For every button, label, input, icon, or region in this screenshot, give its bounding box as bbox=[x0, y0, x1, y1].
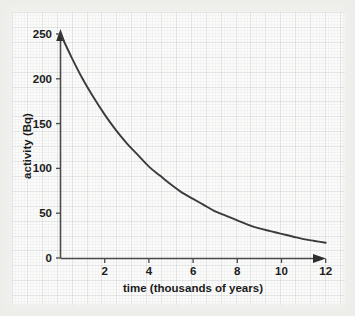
y-tick-label-150: 150 bbox=[33, 118, 52, 130]
y-tick-label-200: 200 bbox=[33, 73, 52, 85]
y-tick-label-0: 0 bbox=[46, 252, 52, 264]
decay-chart-figure: 0 50 100 150 200 250 2 4 6 8 10 12 time … bbox=[0, 0, 355, 316]
x-tick-label-4: 4 bbox=[146, 265, 153, 277]
y-tick-label-50: 50 bbox=[39, 207, 52, 219]
x-axis-title: time (thousands of years) bbox=[123, 282, 263, 294]
y-tick-label-100: 100 bbox=[33, 162, 52, 174]
x-axis-arrow-right-icon bbox=[313, 254, 326, 263]
y-axis bbox=[56, 29, 65, 258]
chart-plot-svg: 0 50 100 150 200 250 2 4 6 8 10 12 time … bbox=[0, 0, 355, 316]
y-axis-title: activity (Bq) bbox=[21, 113, 33, 179]
x-tick-label-12: 12 bbox=[319, 265, 332, 277]
x-tick-label-10: 10 bbox=[275, 265, 288, 277]
x-tick-label-8: 8 bbox=[234, 265, 241, 277]
x-tick-label-6: 6 bbox=[190, 265, 196, 277]
decay-curve-line bbox=[61, 34, 326, 243]
y-tick-label-250: 250 bbox=[33, 28, 52, 40]
x-tick-label-2: 2 bbox=[101, 265, 107, 277]
